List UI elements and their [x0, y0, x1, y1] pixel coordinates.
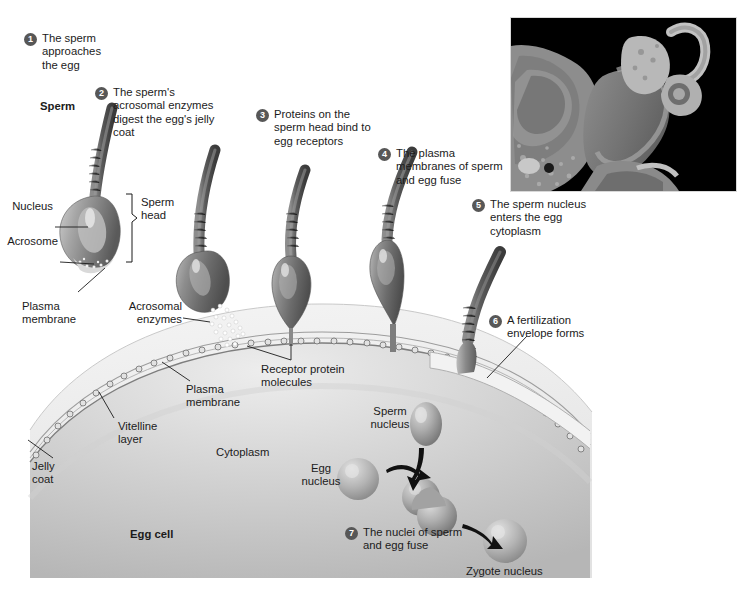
step-badge-1: 1 — [24, 33, 37, 46]
label-vitelline-layer: Vitelline layer — [118, 420, 168, 447]
label-jelly-coat: Jelly coat — [32, 460, 66, 487]
label-egg-nucleus: Egg nucleus — [294, 462, 348, 489]
step-callout-5: 5 The sperm nucleus enters the egg cytop… — [472, 198, 590, 238]
label-nucleus: Nucleus — [0, 200, 53, 213]
label-sperm-nucleus: Sperm nucleus — [360, 405, 420, 432]
step-badge-7: 7 — [345, 527, 358, 540]
label-zygote-nucleus: Zygote nucleus — [466, 565, 543, 578]
step-text-5: The sperm nucleus enters the egg cytopla… — [490, 198, 590, 238]
label-acrosome: Acrosome — [0, 235, 58, 248]
label-acrosomal-enzymes: Acrosomal enzymes — [122, 300, 182, 327]
egg-cell-body — [30, 304, 592, 578]
label-plasma-membrane-egg: Plasma membrane — [186, 383, 246, 410]
zygote-nucleus-body — [483, 519, 527, 563]
label-receptor-protein-molecules: Receptor protein molecules — [261, 363, 347, 390]
acrosomal-enzyme-granules — [210, 304, 245, 347]
step-text-4: The plasma membranes of sperm and egg fu… — [396, 147, 506, 187]
step-badge-6: 6 — [489, 315, 502, 328]
electron-micrograph-inset — [510, 17, 737, 192]
step-text-1: The sperm approaches the egg — [42, 32, 116, 72]
label-egg-cell: Egg cell — [130, 528, 173, 541]
step-badge-5: 5 — [472, 199, 485, 212]
step-badge-3: 3 — [256, 109, 269, 122]
leader-lines — [28, 227, 527, 458]
step-text-2: The sperm's acrosomal enzymes digest the… — [113, 86, 220, 140]
label-sperm: Sperm — [40, 100, 75, 113]
fertilization-envelope — [430, 352, 594, 452]
fertilization-diagram: 1 The sperm approaches the egg 2 The spe… — [0, 0, 743, 604]
micrograph-image — [511, 18, 736, 191]
label-cytoplasm: Cytoplasm — [216, 446, 269, 459]
step-text-6: A fertilization envelope forms — [507, 314, 593, 341]
receptor-protein-molecules — [33, 338, 584, 458]
step-badge-4: 4 — [378, 148, 391, 161]
step-callout-4: 4 The plasma membranes of sperm and egg … — [378, 147, 506, 187]
step-callout-3: 3 Proteins on the sperm head bind to egg… — [256, 108, 376, 148]
label-sperm-head: Sperm head — [141, 196, 189, 223]
step-callout-2: 2 The sperm's acrosomal enzymes digest t… — [95, 86, 220, 140]
step-callout-1: 1 The sperm approaches the egg — [24, 32, 116, 72]
sperm-3 — [272, 170, 311, 346]
sperm-2 — [176, 150, 245, 347]
label-plasma-membrane-sperm: Plasma membrane — [22, 300, 84, 327]
step-badge-2: 2 — [95, 87, 108, 100]
step-text-7: The nuclei of sperm and egg fuse — [363, 526, 473, 553]
step-text-3: Proteins on the sperm head bind to egg r… — [274, 108, 376, 148]
step-callout-6: 6 A fertilization envelope forms — [489, 314, 593, 341]
sperm-5 — [456, 252, 500, 374]
step-callout-7: 7 The nuclei of sperm and egg fuse — [345, 526, 473, 553]
